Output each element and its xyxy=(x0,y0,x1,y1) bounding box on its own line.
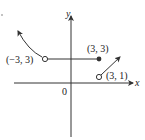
y-axis-label: y xyxy=(66,9,70,19)
point-label-3-1: (3, 1) xyxy=(106,71,128,81)
origin-label: 0 xyxy=(62,87,67,97)
filled-point-3-3 xyxy=(97,57,102,62)
point-label-3-3: (3, 3) xyxy=(87,44,109,54)
piecewise-function-graph: y x 0 (−3, 3) (3, 3) (3, 1) xyxy=(0,0,145,140)
point-label-neg3-3: (−3, 3) xyxy=(6,55,33,65)
stray-dot xyxy=(1,14,3,16)
open-point-neg3-3 xyxy=(42,56,47,61)
x-axis-label: x xyxy=(135,78,139,88)
open-point-3-1 xyxy=(96,74,101,79)
